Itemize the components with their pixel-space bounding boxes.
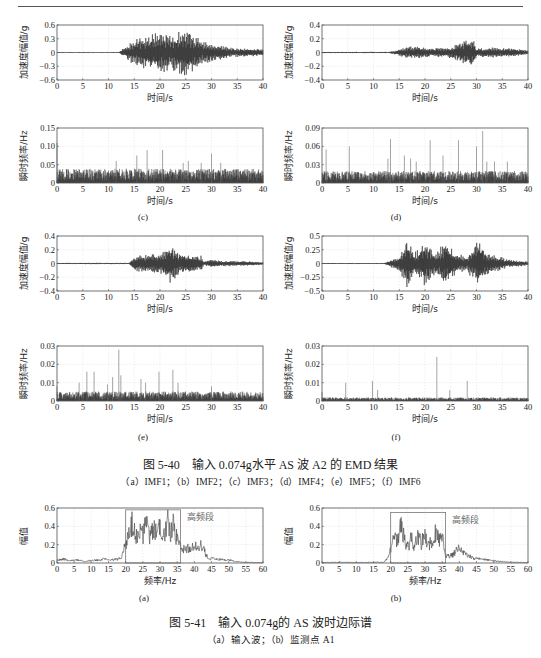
panel-label-c: (c)	[123, 212, 163, 222]
svg-text:−0.6: −0.6	[40, 75, 55, 85]
svg-text:5: 5	[72, 564, 76, 574]
chart-c-freq: 05101520253035400.150.100.050时间/s瞬时频率/Hz	[0, 118, 268, 218]
svg-text:20: 20	[156, 184, 165, 194]
x-tick-labels: 0510152025303540	[55, 292, 267, 302]
svg-text:10: 10	[369, 184, 378, 194]
svg-text:35: 35	[233, 292, 242, 302]
svg-text:25: 25	[139, 564, 148, 574]
svg-text:30: 30	[421, 564, 430, 574]
svg-text:25: 25	[447, 292, 456, 302]
svg-text:0.01: 0.01	[40, 378, 55, 388]
svg-text:30: 30	[207, 292, 216, 302]
chart-b-spectrum: 高频段0510152025303540455055600.60.40.20频率/…	[265, 498, 533, 598]
svg-text:0: 0	[320, 184, 324, 194]
svg-text:0: 0	[55, 402, 59, 412]
svg-text:40: 40	[524, 81, 533, 91]
svg-text:20: 20	[421, 184, 430, 194]
x-axis-label: 时间/s	[412, 92, 438, 103]
svg-text:20: 20	[421, 81, 430, 91]
svg-text:20: 20	[156, 81, 165, 91]
x-tick-labels: 0510152025303540	[55, 402, 267, 412]
svg-text:0.01: 0.01	[305, 378, 320, 388]
svg-text:40: 40	[524, 292, 533, 302]
svg-text:35: 35	[233, 184, 242, 194]
svg-text:5: 5	[337, 564, 341, 574]
y-axis-label: 瞬时频率/Hz	[18, 348, 29, 399]
y-axis-label: 加速度幅值/g	[18, 237, 29, 291]
x-tick-labels: 051015202530354045505560	[320, 564, 532, 574]
x-tick-labels: 0510152025303540	[320, 184, 532, 194]
svg-text:0.25: 0.25	[305, 245, 320, 255]
chart-e-accel: 05101520253035400.40.20−0.2−0.4时间/s加速度幅值…	[0, 226, 268, 326]
svg-text:0: 0	[316, 396, 320, 406]
svg-text:−0.25: −0.25	[300, 272, 320, 282]
svg-text:0: 0	[51, 558, 55, 568]
y-axis-label: 瞬时频率/Hz	[283, 130, 294, 181]
svg-text:−0.4: −0.4	[305, 75, 321, 85]
svg-text:25: 25	[404, 564, 413, 574]
x-tick-labels: 0510152025303540	[55, 184, 267, 194]
svg-text:5: 5	[346, 184, 350, 194]
svg-text:40: 40	[524, 402, 533, 412]
svg-text:0: 0	[51, 259, 55, 269]
svg-text:−0.4: −0.4	[40, 286, 56, 296]
svg-text:25: 25	[447, 402, 456, 412]
svg-text:25: 25	[447, 184, 456, 194]
svg-text:0.6: 0.6	[309, 503, 320, 513]
svg-text:0.3: 0.3	[44, 34, 55, 44]
svg-text:0.2: 0.2	[309, 540, 320, 550]
y-tick-labels: 0.40.20−0.2−0.4	[305, 20, 321, 85]
y-axis-label: 幅值	[18, 527, 29, 545]
svg-text:20: 20	[421, 402, 430, 412]
svg-text:5: 5	[346, 81, 350, 91]
svg-text:35: 35	[233, 402, 242, 412]
svg-text:15: 15	[104, 564, 113, 574]
svg-text:5: 5	[81, 81, 85, 91]
y-tick-labels: 0.150.100.050	[40, 123, 55, 188]
svg-text:5: 5	[81, 402, 85, 412]
svg-text:15: 15	[395, 81, 404, 91]
svg-text:0: 0	[55, 564, 59, 574]
svg-text:20: 20	[421, 292, 430, 302]
svg-text:0: 0	[320, 402, 324, 412]
svg-text:55: 55	[507, 564, 516, 574]
svg-text:10: 10	[104, 184, 113, 194]
svg-text:10: 10	[369, 402, 378, 412]
chart-e-freq: 05101520253035400.030.020.010时间/s瞬时频率/Hz	[0, 336, 268, 436]
svg-text:35: 35	[498, 402, 507, 412]
svg-text:0.4: 0.4	[309, 20, 320, 30]
y-tick-labels: 0.030.020.010	[305, 341, 320, 406]
svg-text:35: 35	[498, 81, 507, 91]
svg-text:0: 0	[320, 81, 324, 91]
svg-text:0.6: 0.6	[44, 503, 55, 513]
svg-text:5: 5	[81, 184, 85, 194]
y-axis-label: 加速度幅值/g	[283, 26, 294, 80]
series	[57, 350, 263, 401]
chart-d-accel: 05101520253035400.40.20−0.2−0.4时间/s加速度幅值…	[265, 15, 533, 115]
svg-text:35: 35	[498, 292, 507, 302]
figure-5-41-subcaption: （a）输入波；（b）监测点 A1	[0, 632, 541, 646]
svg-text:−0.2: −0.2	[40, 272, 55, 282]
svg-text:50: 50	[489, 564, 498, 574]
x-axis-label: 时间/s	[147, 303, 173, 314]
svg-text:0: 0	[316, 178, 320, 188]
svg-text:10: 10	[369, 81, 378, 91]
svg-text:20: 20	[386, 564, 395, 574]
high-frequency-label: 高频段	[187, 511, 214, 522]
svg-text:60: 60	[524, 564, 533, 574]
svg-text:0.4: 0.4	[44, 231, 55, 241]
svg-text:0: 0	[55, 184, 59, 194]
chart-f-accel: 05101520253035400.50.250−0.25−0.5时间/s加速度…	[265, 226, 533, 326]
x-axis-label: 频率/Hz	[409, 575, 442, 586]
svg-text:35: 35	[438, 564, 447, 574]
y-axis-label: 瞬时频率/Hz	[18, 130, 29, 181]
svg-text:0.5: 0.5	[309, 231, 320, 241]
y-axis-label: 瞬时频率/Hz	[283, 348, 294, 399]
svg-text:10: 10	[87, 564, 96, 574]
x-axis-label: 时间/s	[412, 195, 438, 206]
svg-text:30: 30	[472, 402, 481, 412]
svg-text:30: 30	[207, 184, 216, 194]
high-frequency-label: 高频段	[452, 514, 479, 525]
y-tick-labels: 0.60.40.20	[309, 503, 320, 568]
svg-text:0: 0	[320, 292, 324, 302]
